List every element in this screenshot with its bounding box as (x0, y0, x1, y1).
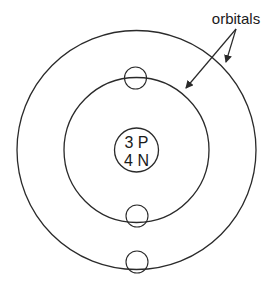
atom-diagram: 3 P 4 N orbitals (0, 0, 273, 286)
arrow-to-inner-orbital (186, 29, 236, 88)
electron-inner-bottom (126, 205, 148, 227)
arrow-to-outer-orbital (226, 29, 236, 62)
nucleus-neutrons: 4 N (124, 152, 149, 169)
nucleus-protons: 3 P (124, 134, 148, 151)
nucleus: 3 P 4 N (115, 128, 159, 172)
orbitals-label: orbitals (212, 10, 260, 27)
